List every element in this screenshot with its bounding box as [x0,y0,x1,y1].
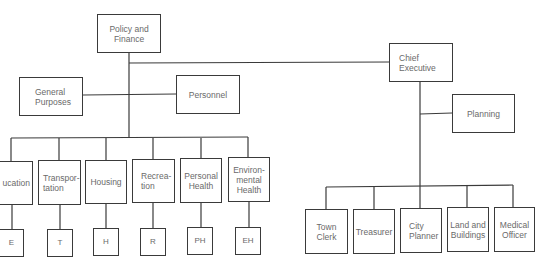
box-committee-recreation: Recrea- tion [132,159,175,203]
box-abbr-e: E [0,229,24,257]
box-policy-finance: Policy and Finance [97,14,161,53]
box-committee-transportation: Transpor- tation [38,160,81,205]
box-planning: Planning [452,94,515,133]
box-abbr-ph: PH [187,227,213,255]
box-officer-city-planner: City Planner [400,208,442,253]
box-chief-executive: Chief Executive [389,43,453,82]
box-abbr-t: T [47,229,73,257]
box-personnel: Personnel [176,75,240,114]
box-committee-education: ucation [0,161,33,205]
box-committee-housing: Housing [85,160,127,204]
box-officer-land-buildings: Land and Buildings [447,207,489,252]
box-abbr-r: R [140,228,166,256]
box-abbr-h: H [93,228,119,256]
box-abbr-eh: EH [235,227,261,255]
box-officer-treasurer: Treasurer [353,209,395,254]
box-officer-medical: Medical Officer [494,207,535,252]
box-general-purposes: General Purposes [19,77,83,116]
box-committee-environmental-health: Environ- mental Health [228,157,270,202]
box-committee-personal-health: Personal Health [180,158,222,203]
box-officer-town-clerk: Town Clerk [305,209,348,254]
